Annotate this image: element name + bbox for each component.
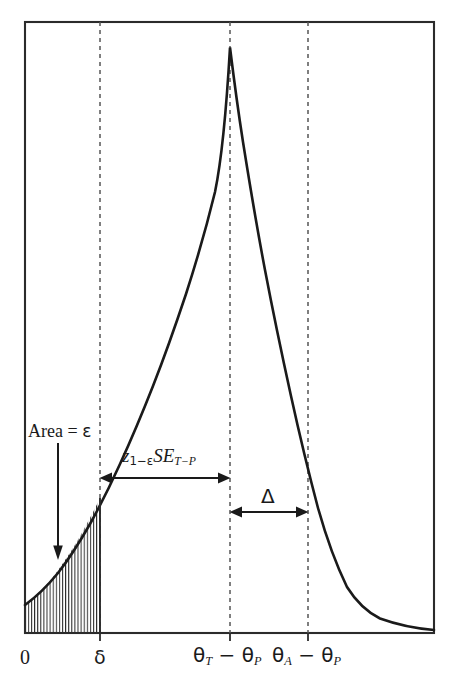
theta-p-subscript: P bbox=[254, 654, 262, 668]
area-epsilon-label: Area = ε bbox=[28, 422, 91, 440]
axis-label-theta-t-minus-theta-p: θT − θP bbox=[193, 645, 261, 668]
distribution-plot bbox=[0, 0, 450, 684]
area-equals-text: Area = bbox=[28, 421, 82, 441]
theta-glyph: θ bbox=[272, 643, 284, 667]
theta-p-subscript: P bbox=[334, 654, 342, 668]
se-subscript-text: T−P bbox=[174, 455, 196, 468]
area-epsilon-arrow bbox=[53, 443, 63, 560]
axis-label-theta-a-minus-theta-p: θA − θP bbox=[272, 645, 341, 668]
minus-glyph: − bbox=[292, 643, 321, 667]
delta-increment-arrow bbox=[230, 507, 309, 518]
z-subscript-text: 1−ε bbox=[129, 454, 153, 468]
theta-glyph-2: θ bbox=[321, 643, 333, 667]
se-base-glyph: SE bbox=[153, 445, 174, 466]
delta-increment-label: Δ bbox=[261, 486, 275, 506]
se-subscript: T−P bbox=[174, 455, 196, 468]
z-se-span-label: z1−εSET−P bbox=[122, 446, 196, 468]
z-subscript: 1−ε bbox=[129, 455, 153, 468]
epsilon-glyph: ε bbox=[82, 421, 91, 441]
axis-label-delta: δ bbox=[94, 648, 106, 667]
rejection-area-hatch bbox=[25, 470, 101, 634]
theta-a-subscript: A bbox=[284, 654, 292, 668]
minus-glyph: − bbox=[212, 643, 241, 667]
axis-tick-marks bbox=[100, 633, 308, 641]
theta-glyph-2: θ bbox=[242, 643, 254, 667]
figure-container: 0 δ θT − θP θA − θP Area = ε z1−εSET−P Δ bbox=[0, 0, 450, 684]
theta-glyph: θ bbox=[193, 643, 205, 667]
axis-label-zero: 0 bbox=[20, 647, 30, 667]
z-se-span-arrow bbox=[100, 473, 231, 484]
